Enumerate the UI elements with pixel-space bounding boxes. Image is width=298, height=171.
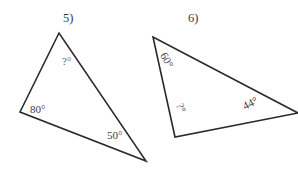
figure-number-5: 5)	[63, 11, 73, 25]
triangle-6-unknown-angle-label: ?°	[174, 101, 189, 114]
triangle-6-outline	[153, 37, 298, 137]
figure-6-group: 60° ?° 44°	[153, 37, 298, 137]
triangle-6-angle-60-label: 60°	[158, 50, 176, 69]
triangle-5-unknown-angle-label: ?°	[62, 55, 71, 67]
triangle-5-outline	[20, 33, 146, 161]
figure-number-6: 6)	[188, 11, 198, 25]
triangle-figures-canvas: ?° 80° 50° 60° ?° 44° 5) 6)	[0, 0, 298, 171]
geometry-worksheet: ?° 80° 50° 60° ?° 44° 5) 6)	[0, 0, 298, 171]
triangle-5-angle-80-label: 80°	[30, 103, 45, 115]
triangle-5-angle-50-label: 50°	[107, 129, 122, 141]
triangle-6-angle-44-label: 44°	[240, 94, 259, 112]
figure-5-group: ?° 80° 50°	[20, 33, 146, 161]
